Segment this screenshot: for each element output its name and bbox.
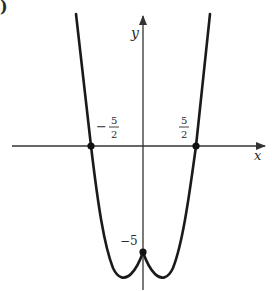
svg-text:5: 5 xyxy=(111,115,117,126)
svg-text:2: 2 xyxy=(181,129,187,140)
root-point-right xyxy=(192,142,199,149)
svg-text:5: 5 xyxy=(181,115,187,126)
root-point-left xyxy=(87,142,94,149)
y-axis-label: y xyxy=(130,25,140,41)
part-label: ) xyxy=(0,0,8,16)
x-axis-label: x xyxy=(254,148,262,163)
function-graph: ) y x − 5 2 5 2 −5 xyxy=(0,0,272,291)
svg-text:2: 2 xyxy=(111,129,117,140)
left-root-label: − 5 2 xyxy=(96,115,119,140)
svg-text:−: − xyxy=(96,119,107,134)
y-intercept-label: −5 xyxy=(120,234,138,248)
y-intercept-point xyxy=(139,248,146,255)
right-root-label: 5 2 xyxy=(179,115,189,140)
